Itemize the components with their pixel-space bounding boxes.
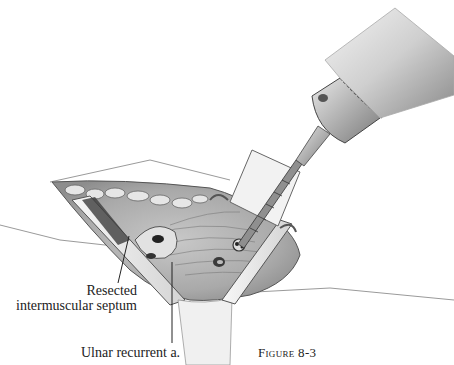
label-septum-line1: Resected bbox=[86, 283, 137, 298]
label-ulnar-recurrent-artery: Ulnar recurrent a. bbox=[81, 345, 180, 360]
label-resected-septum: Resected intermuscular septum bbox=[10, 283, 137, 313]
bottom-retractor bbox=[178, 298, 232, 365]
figure-caption-number: 8-3 bbox=[298, 345, 316, 360]
label-septum-line2: intermuscular septum bbox=[10, 298, 137, 313]
figure-caption-prefix: Figure bbox=[258, 345, 295, 360]
figure-caption: Figure 8-3 bbox=[258, 345, 316, 361]
surgical-illustration: Resected intermuscular septum Ulnar recu… bbox=[0, 0, 454, 365]
